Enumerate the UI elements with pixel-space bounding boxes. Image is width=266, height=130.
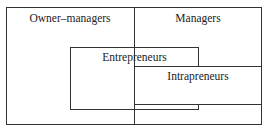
- owner-managers-label: Owner–managers: [6, 12, 134, 25]
- intrapreneurs-label: Intrapreneurs: [134, 70, 262, 83]
- entrepreneurs-label: Entrepreneurs: [70, 51, 199, 64]
- managers-label: Managers: [134, 12, 262, 25]
